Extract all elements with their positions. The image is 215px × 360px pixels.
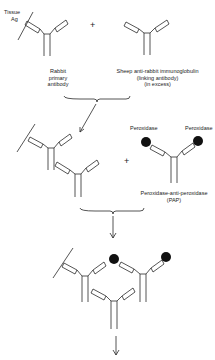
peroxidase-dot-complex-left (109, 254, 119, 264)
linking-antibody-stage2 (55, 160, 99, 197)
arrow-1 (80, 104, 96, 132)
peroxidase-dot-complex-right (161, 252, 171, 262)
pap-line1: Peroxidase-anti-peroxidase (138, 190, 210, 197)
brace-2 (80, 208, 144, 214)
sheep-line3: (in excess) (100, 81, 215, 88)
tissue-antigen-line-3 (53, 248, 73, 278)
complex-linking (91, 288, 135, 329)
sheep-linking-label: Sheep anti-rabbit immunoglobulin (linkin… (100, 68, 215, 88)
pap-line2: (PAP) (138, 197, 210, 204)
rabbit-primary-label: Rabbit primary antibody (36, 68, 80, 88)
primary-antibody-stage2 (28, 134, 72, 170)
arrow-3 (113, 336, 119, 355)
sheep-linking-antibody (124, 20, 169, 55)
rabbit-line3: antibody (36, 81, 80, 88)
arrow-2 (110, 216, 116, 238)
complex-pap (119, 260, 164, 302)
pap-label: Peroxidase-anti-peroxidase (PAP) (138, 190, 210, 203)
tissue-antigen-line (18, 12, 33, 40)
tissue-label: Tissue (4, 9, 20, 16)
brace-1 (64, 96, 130, 102)
peroxidase-label-right: Peroxidase (185, 125, 213, 132)
tissue-ag-label: Tissue Ag (4, 9, 20, 22)
ag-label: Ag (4, 16, 20, 23)
plus-sign-1: + (90, 22, 95, 29)
complex-primary (62, 262, 106, 302)
sheep-line1: Sheep anti-rabbit immunoglobulin (100, 68, 215, 75)
plus-sign-2: + (124, 158, 129, 165)
rabbit-primary-antibody (25, 20, 68, 56)
peroxidase-dot-right (193, 136, 203, 146)
peroxidase-dot-left (141, 137, 151, 147)
pap-complex (150, 143, 195, 183)
peroxidase-label-left: Peroxidase (130, 125, 158, 132)
pap-method-diagram (0, 0, 215, 360)
